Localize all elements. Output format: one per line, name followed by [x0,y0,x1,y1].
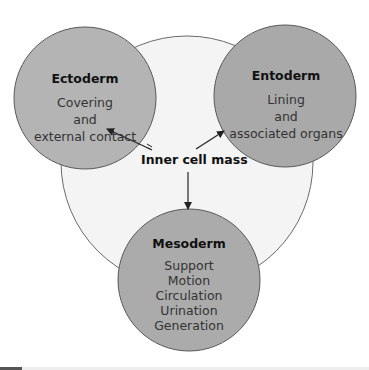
entoderm-label: Entoderm Lining and associated organs [220,67,352,142]
mesoderm-label: Mesoderm Support Motion Circulation Urin… [124,236,254,333]
mesoderm-line: Circulation [124,288,254,303]
inner-cell-mass-label: Inner cell mass [141,152,248,167]
mesoderm-line: Generation [124,318,254,333]
mesoderm-line: Motion [124,273,254,288]
ectoderm-title: Ectoderm [20,70,150,87]
ectoderm-line: external contact [20,128,150,145]
entoderm-line: Lining [220,91,352,108]
mesoderm-title: Mesoderm [124,236,254,251]
mesoderm-line: Support [124,258,254,273]
mesoderm-line: Urination [124,303,254,318]
ectoderm-line: and [20,111,150,128]
ectoderm-label: Ectoderm Covering and external contact [20,70,150,145]
entoderm-line: and [220,108,352,125]
entoderm-title: Entoderm [220,67,352,84]
entoderm-line: associated organs [220,125,352,142]
ectoderm-line: Covering [20,94,150,111]
